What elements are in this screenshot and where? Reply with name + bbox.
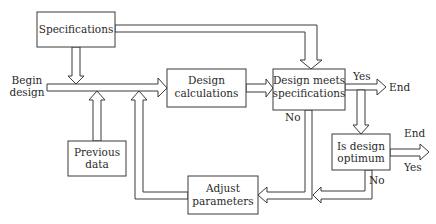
label-adjust-2: parameters	[192, 195, 253, 207]
label-begin-1: Begin	[12, 74, 43, 86]
label-meets-1: Design meets	[273, 74, 345, 86]
label-optimum-no: No	[369, 174, 385, 186]
label-optimum-yes: Yes	[403, 161, 422, 173]
label-design-calc-2: calculations	[175, 87, 239, 99]
label-optimum-2: optimum	[337, 152, 384, 164]
label-previous-1: Previous	[74, 146, 120, 158]
label-meets-2: specifications	[273, 87, 346, 99]
label-previous-2: data	[85, 158, 108, 170]
label-optimum-1: Is design	[337, 140, 385, 152]
label-specifications: Specifications	[39, 23, 114, 35]
arrow-optimum-yes-end	[390, 144, 429, 160]
arrow-optimum-no	[313, 170, 372, 203]
label-begin-2: design	[9, 86, 44, 98]
label-optimum-end: End	[404, 127, 425, 139]
label-design-calc-1: Design	[188, 74, 225, 86]
arrow-meets-to-optimum	[353, 90, 369, 134]
flowchart-canvas: Specifications Design calculations Desig…	[0, 0, 436, 224]
arrow-specs-to-meets	[115, 25, 322, 69]
label-meets-end: End	[389, 81, 410, 93]
arrow-calc-to-meets	[246, 79, 273, 97]
arrow-previous-up	[89, 91, 105, 141]
arrow-specs-down	[68, 47, 84, 84]
label-meets-no: No	[285, 111, 301, 123]
arrow-begin-to-calc	[47, 78, 167, 97]
arrow-meets-no-adjust	[258, 110, 312, 203]
label-meets-yes: Yes	[352, 70, 371, 82]
label-adjust-1: Adjust	[205, 182, 241, 194]
